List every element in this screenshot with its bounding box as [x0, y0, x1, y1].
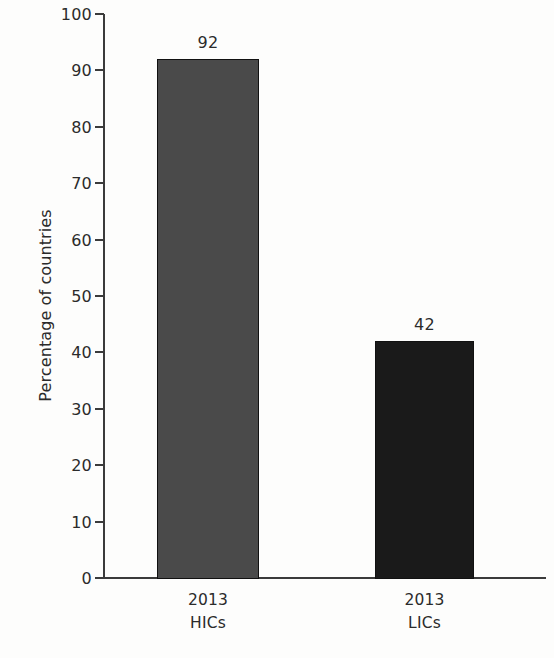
y-tick-label: 40 [6, 343, 92, 362]
bar-value-label: 92 [157, 33, 259, 52]
chart-figure: Percentage of countries 0102030405060708… [0, 0, 554, 658]
x-axis-category-line: 2013 [375, 589, 474, 612]
x-axis-category-line: 2013 [157, 589, 259, 612]
y-axis-title: Percentage of countries [36, 181, 55, 431]
y-tick-label: 10 [6, 512, 92, 531]
y-tick-label: 20 [6, 456, 92, 475]
y-tick-label: 80 [6, 117, 92, 136]
y-tick-label: 90 [6, 61, 92, 80]
y-tick-label: 30 [6, 399, 92, 418]
y-tick-label: 70 [6, 174, 92, 193]
x-axis-category-line: LICs [375, 612, 474, 635]
plot-area: Percentage of countries 0102030405060708… [0, 0, 554, 658]
y-axis-line [103, 14, 105, 579]
bar-2 [375, 341, 474, 579]
x-axis-category-label: 2013LICs [375, 589, 474, 635]
y-tick-label: 0 [6, 569, 92, 588]
y-tick-label: 60 [6, 230, 92, 249]
y-tick-label: 50 [6, 287, 92, 306]
bar-1 [157, 59, 259, 579]
bar-value-label: 42 [375, 315, 474, 334]
y-tick-label: 100 [6, 5, 92, 24]
x-axis-category-label: 2013HICs [157, 589, 259, 635]
x-axis-category-line: HICs [157, 612, 259, 635]
